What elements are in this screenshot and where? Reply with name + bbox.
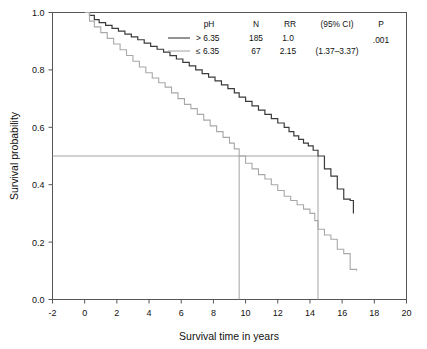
x-tick-label: 20 bbox=[401, 308, 411, 318]
y-tick-label: 0.4 bbox=[32, 180, 45, 190]
kaplan-meier-chart: -202468101214161820 0.00.20.40.60.81.0 S… bbox=[0, 0, 427, 349]
legend-row-1-n: 67 bbox=[251, 46, 261, 56]
x-tick-label: 6 bbox=[179, 308, 184, 318]
x-tick-label: 12 bbox=[273, 308, 283, 318]
legend-row-1-ci: (1.37–3.37) bbox=[316, 46, 359, 56]
legend-row-1-ph: ≤ 6.35 bbox=[196, 46, 220, 56]
y-axis-title: Survival probability bbox=[8, 111, 20, 200]
legend-row-1-rr: 2.15 bbox=[280, 46, 297, 56]
x-tick-label: 2 bbox=[114, 308, 119, 318]
legend-header-ph: pH bbox=[204, 19, 215, 29]
x-tick-label: 4 bbox=[147, 308, 152, 318]
y-tick-label: 0.0 bbox=[32, 295, 45, 305]
legend-row-0-rr: 1.0 bbox=[282, 33, 294, 43]
x-axis-title: Survival time in years bbox=[179, 330, 279, 342]
y-tick-label: 1.0 bbox=[32, 8, 45, 18]
x-tick-label: 0 bbox=[82, 308, 87, 318]
x-tick-label: 18 bbox=[369, 308, 379, 318]
y-tick-label: 0.8 bbox=[32, 65, 45, 75]
x-tick-label: 14 bbox=[305, 308, 315, 318]
legend-row-0-n: 185 bbox=[249, 33, 263, 43]
legend-row-0-ph: > 6.35 bbox=[196, 33, 220, 43]
legend-header-rr: RR bbox=[284, 19, 296, 29]
legend-header-n: N bbox=[253, 19, 259, 29]
x-tick-label: 16 bbox=[337, 308, 347, 318]
y-tick-label: 0.2 bbox=[32, 238, 45, 248]
legend-header-p: P bbox=[378, 19, 384, 29]
x-tick-label: -2 bbox=[48, 308, 56, 318]
survival-chart-figure: -202468101214161820 0.00.20.40.60.81.0 S… bbox=[0, 0, 427, 349]
y-tick-label: 0.6 bbox=[32, 123, 45, 133]
legend-header-ci: (95% CI) bbox=[320, 19, 353, 29]
legend-row-0-p: .001 bbox=[373, 35, 390, 45]
x-tick-label: 10 bbox=[241, 308, 251, 318]
x-tick-label: 8 bbox=[211, 308, 216, 318]
